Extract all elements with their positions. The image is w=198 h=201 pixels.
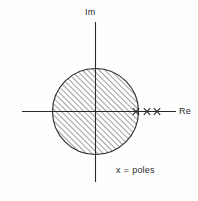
legend-separator: = [124,165,129,175]
plot-canvas [0,0,198,201]
legend-marker-icon: x [116,165,121,175]
imaginary-axis-label: Im [85,8,95,17]
legend-text: poles [132,165,155,175]
complex-plane-figure: Im Re x=poles [0,0,198,201]
real-axis-label: Re [179,107,191,116]
legend: x=poles [116,166,155,175]
